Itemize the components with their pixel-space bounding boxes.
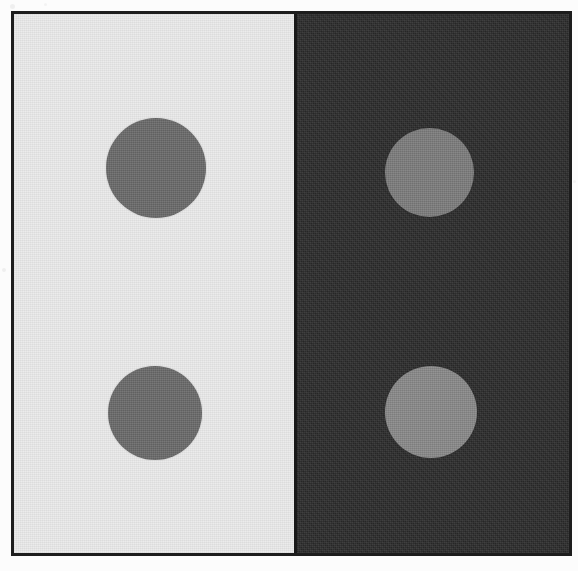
scan-speck	[2, 268, 6, 272]
figure-root	[0, 0, 578, 571]
scan-speck	[573, 180, 576, 183]
scan-speck	[10, 4, 15, 9]
scan-speck	[44, 3, 47, 6]
plate-frame-border	[11, 11, 572, 556]
